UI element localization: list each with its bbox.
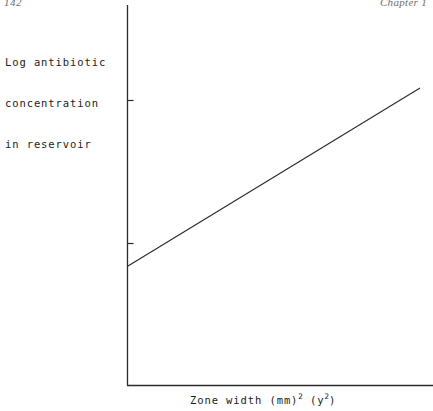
textbook-page: 142 Chapter 1 Log antibiotic concentrati… <box>0 0 433 411</box>
x-axis-caption: Zone width (mm)2 (y2) <box>190 392 336 406</box>
x-axis-caption-suffix: ) <box>329 394 336 406</box>
x-axis-caption-prefix: Zone width (mm) <box>190 394 298 406</box>
x-axis-caption-mid: (y <box>303 394 325 406</box>
standard-curve-plot <box>0 0 433 411</box>
data-series-line <box>128 88 420 266</box>
